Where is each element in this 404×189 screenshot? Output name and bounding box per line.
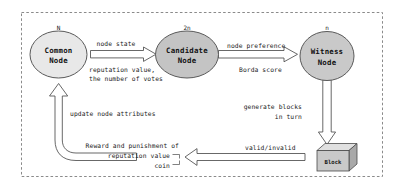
arrow-candidate-to-witness (219, 47, 298, 62)
label-reward-line3: coin (154, 162, 170, 169)
common-node-label-line2: Node (49, 56, 68, 65)
label-reputation-value-votes-line2: the number of votes (89, 75, 163, 82)
block-label: Block (325, 159, 342, 165)
common-node-count: N (57, 24, 61, 31)
label-reward-line2: reputation value (108, 152, 170, 160)
arrow-block-to-reward (185, 149, 305, 166)
block-shape[interactable]: Block (317, 144, 357, 172)
label-reputation-value-votes-line1: reputation value, (89, 66, 155, 74)
witness-node-label-line1: Witness (311, 47, 344, 56)
arrow-update-node-attributes (50, 84, 137, 161)
flow-diagram: Common Node N Candidate Node 2n Witness … (0, 0, 404, 189)
leader-bracket-reputation (173, 155, 180, 159)
candidate-node-label-line2: Node (178, 56, 197, 65)
label-node-state: node state (97, 40, 136, 47)
candidate-node-count: 2n (183, 24, 191, 31)
witness-node-count: n (325, 24, 329, 31)
label-update-node-attributes: update node attributes (70, 110, 156, 118)
label-generate-blocks-line2: in turn (275, 113, 302, 120)
label-node-preference: node preference (227, 42, 285, 50)
label-borda-score: Borda score (239, 66, 282, 73)
common-node-label-line1: Common (45, 46, 73, 55)
label-valid-invalid: valid/invalid (245, 144, 296, 151)
candidate-node-label-line1: Candidate (166, 46, 208, 55)
witness-node[interactable] (300, 32, 354, 81)
label-generate-blocks-line1: generate blocks (244, 103, 302, 111)
witness-node-label-line2: Node (318, 58, 337, 67)
arrow-common-to-candidate (91, 47, 157, 61)
diagram-canvas: Common Node N Candidate Node 2n Witness … (0, 0, 404, 189)
arrow-witness-to-block (318, 80, 335, 145)
label-reward-line1: Reward and punishment of (86, 142, 179, 150)
leader-bracket-coin (173, 161, 180, 165)
candidate-node[interactable] (156, 31, 219, 78)
common-node[interactable] (30, 31, 87, 78)
